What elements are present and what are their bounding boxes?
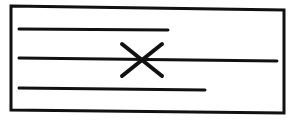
- line-bottom: [19, 88, 205, 90]
- line-middle: [19, 58, 277, 61]
- diagram-canvas: [0, 0, 291, 122]
- line-top: [19, 29, 168, 30]
